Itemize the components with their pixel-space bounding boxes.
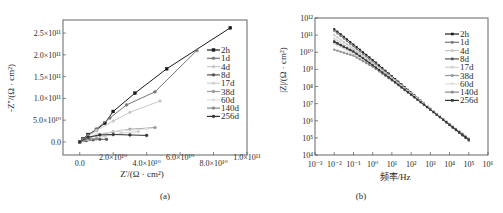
legend-label: 256d [460,95,479,105]
data-point [340,46,342,48]
data-point [343,38,345,40]
data-point [359,58,361,60]
x-axis-label-a: Z'/(Ω · cm²) [120,169,164,179]
data-point [436,114,438,116]
y-tick-label: 1.5×10¹¹ [34,73,62,82]
y-tick-label: 5.0×10¹⁰ [33,116,61,125]
caption-b: (b) [356,191,367,201]
data-point [336,43,338,45]
data-point [333,34,335,36]
x-tick-label: 10⁻³ [308,160,323,169]
x-tick-label: 1.0×10¹¹ [233,153,261,162]
data-point [333,43,335,45]
data-point [365,62,367,64]
data-point [356,48,358,50]
data-point [378,69,380,71]
y-tick-label: 10⁵ [302,134,313,143]
data-point [346,40,348,42]
data-point [333,41,335,43]
x-tick-label: 10³ [425,160,436,169]
legend-marker [212,74,215,77]
data-point [362,60,364,62]
data-point [442,119,444,121]
data-point [336,36,338,38]
data-point [384,74,386,76]
x-tick-label: 2.0×10¹⁰ [99,153,127,162]
y-tick-label: 10⁷ [302,100,313,109]
data-point [465,136,467,138]
data-point [401,86,403,88]
nyquist-chart: 0.05.0×10¹⁰1.0×10¹¹1.5×10¹¹2.0×10¹¹2.5×1… [6,20,261,201]
legend-label: 256d [221,111,240,121]
data-point [105,138,108,141]
data-point [365,56,367,58]
data-point [343,41,345,43]
data-point [346,53,348,55]
data-point [429,109,431,111]
data-point [362,53,364,55]
data-point [445,121,447,123]
x-tick-label: 0.0 [75,159,85,168]
data-point [417,99,419,101]
data-point [336,32,338,34]
data-point [340,51,342,53]
data-point [359,50,361,52]
y-tick-label: 10⁴ [302,151,313,160]
data-point [352,45,354,47]
y-axis-label-a: -Z''/(Ω · cm²) [6,64,16,112]
data-point [129,111,132,114]
y-tick-label: 10⁸ [302,83,313,92]
data-point [394,81,396,83]
data-point [154,126,157,129]
data-point [95,137,98,140]
legend-marker [212,82,215,85]
data-point [375,67,377,69]
data-point [368,62,370,64]
x-axis-ticks-a: 0.02.0×10¹⁰4.0×10¹⁰6.0×10¹⁰8.0×10¹⁰1.0×1… [75,152,262,168]
x-tick-label: 4.0×10¹⁰ [133,159,161,168]
data-point [449,124,451,126]
x-axis-label-b: 频率/Hz [380,171,411,182]
data-point [346,46,348,48]
y-tick-label: 10⁹ [302,65,313,74]
legend-marker [212,65,215,68]
data-point [336,50,338,52]
x-tick-label: 10⁵ [463,160,474,169]
data-point [98,138,101,141]
data-point [145,134,148,137]
data-point [112,110,115,113]
data-point [343,52,345,54]
y-tick-label: 10¹¹ [300,31,313,40]
data-point [349,46,351,48]
data-point [381,71,383,73]
y-axis-label-b: |Z|/(Ω · cm²) [278,47,288,92]
data-point [455,129,457,131]
data-point [229,26,232,29]
data-point [336,44,338,46]
data-point [87,136,90,139]
data-point [129,134,132,137]
bode-chart: 10⁴10⁵10⁶10⁷10⁸10⁹10¹⁰10¹¹10¹² 10⁻³10⁻²1… [278,14,494,201]
data-point [343,48,345,50]
data-point [349,54,351,56]
data-point [407,91,409,93]
x-tick-label: 10¹ [387,160,398,169]
legend-marker [212,115,215,118]
x-tick-label: 10² [406,160,417,169]
data-point [352,55,354,57]
legend-marker [212,107,215,110]
data-point [458,131,460,133]
data-point [159,100,162,103]
data-point [410,94,412,96]
data-point [391,79,393,81]
data-point [340,39,342,41]
data-point [349,51,351,53]
data-point [388,76,390,78]
data-point [154,90,157,93]
x-tick-label: 10⁶ [483,160,494,169]
y-tick-label: 1.0×10¹¹ [34,94,62,103]
y-axis-ticks-a: 0.05.0×10¹⁰1.0×10¹¹1.5×10¹¹2.0×10¹¹2.5×1… [33,29,66,147]
x-tick-label: 6.0×10¹⁰ [166,153,194,162]
data-point [352,53,354,55]
data-point [397,84,399,86]
